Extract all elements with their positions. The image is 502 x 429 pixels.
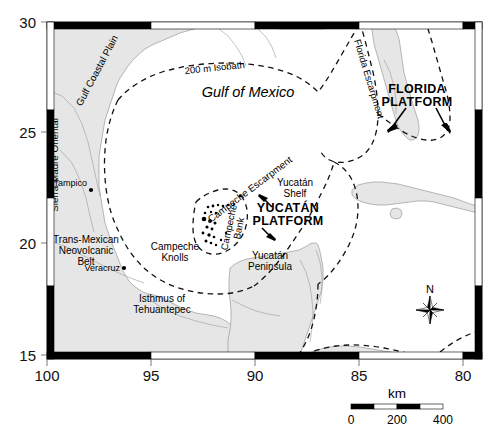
map-figure: Gulf of Mexico 200 m Isobath Florida Esc… <box>0 0 502 429</box>
xtick-90: 90 <box>247 367 264 384</box>
label-trans-mexican-line2: Neovolcanic <box>59 245 113 256</box>
ytick-20: 20 <box>19 235 36 252</box>
label-yucatan-platform-line1: YUCATÁN <box>257 200 319 215</box>
label-yucatan-shelf-line2: Shelf <box>284 188 307 199</box>
xtick-85: 85 <box>351 367 368 384</box>
frame-right <box>475 22 482 359</box>
map-canvas: Gulf of Mexico 200 m Isobath Florida Esc… <box>0 0 502 429</box>
xtick-100: 100 <box>34 367 59 384</box>
scalebar-tick-200: 200 <box>387 413 407 427</box>
scale-bar: km 0 200 400 <box>348 386 454 427</box>
label-city-tampico: Tampico <box>53 178 87 188</box>
label-florida-platform-line2: PLATFORM <box>382 95 453 109</box>
land-isla-juventud <box>390 208 402 219</box>
xtick-80: 80 <box>455 367 472 384</box>
label-yucatan-platform-line2: PLATFORM <box>253 214 324 228</box>
scalebar-segments <box>351 404 443 409</box>
label-isthmus-line2: Tehuantepec <box>133 304 190 315</box>
xtick-95: 95 <box>143 367 160 384</box>
label-isthmus-line1: Isthmus of <box>139 293 185 304</box>
label-gulf-of-mexico: Gulf of Mexico <box>202 84 295 100</box>
ytick-15: 15 <box>19 347 36 364</box>
label-campeche-knolls-line1: Campeche <box>151 241 200 252</box>
map-interior: Gulf of Mexico 200 m Isobath Florida Esc… <box>47 22 482 359</box>
frame-left <box>47 22 54 359</box>
label-yucatan-shelf-line1: Yucatán <box>277 177 313 188</box>
scalebar-unit-label: km <box>388 386 406 401</box>
city-dot-veracruz <box>122 266 126 270</box>
label-campeche-knolls-line2: Knolls <box>161 252 188 263</box>
compass-north-label: N <box>426 283 434 295</box>
label-city-veracruz: Veracruz <box>84 263 120 273</box>
label-trans-mexican-line1: Trans-Mexican <box>53 234 119 245</box>
city-dot-tampico <box>89 188 93 192</box>
label-yucatan-peninsula-line1: Yucatán <box>252 250 288 261</box>
ytick-30: 30 <box>19 14 36 31</box>
frame-top <box>47 22 482 29</box>
scalebar-tick-400: 400 <box>433 413 453 427</box>
frame-bottom <box>47 352 482 359</box>
label-florida-platform-line1: FLORIDA <box>388 82 446 96</box>
scalebar-tick-0: 0 <box>348 413 355 427</box>
ytick-25: 25 <box>19 124 36 141</box>
label-yucatan-peninsula-line2: Peninsula <box>248 261 292 272</box>
